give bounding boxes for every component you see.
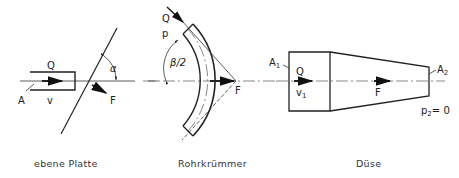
force-arrow <box>92 85 106 93</box>
label-v: v <box>47 95 53 106</box>
bend-inlet-edge <box>183 24 193 34</box>
label-F: F <box>110 95 116 106</box>
bend-outlet-edge <box>183 126 193 136</box>
A1-leader <box>283 65 289 68</box>
label-v1: v1 <box>296 87 306 100</box>
label-Q: Q <box>162 13 170 24</box>
caption-bend: Rohrkrümmer <box>178 158 247 169</box>
label-Q: Q <box>47 60 55 71</box>
nozzle-diagram: A1 Q v1 F A2 p2= 0 Düse <box>269 52 450 169</box>
label-beta-half: β/2 <box>169 57 186 68</box>
label-A2: A2 <box>437 64 448 77</box>
force-construction-line-2 <box>182 81 236 140</box>
caption-nozzle: Düse <box>356 158 381 169</box>
label-A1: A1 <box>269 57 280 70</box>
label-F: F <box>375 87 381 98</box>
label-F: F <box>235 85 241 96</box>
caption-plate: ebene Platte <box>34 158 98 169</box>
label-p: p <box>162 28 168 39</box>
label-A: A <box>18 95 25 106</box>
bend-diagram: Q p β/2 F Rohrkrümmer <box>143 7 275 169</box>
plate-diagram: Q A v F α ebene Platte <box>18 28 158 169</box>
label-alpha: α <box>110 63 117 74</box>
fluid-force-diagrams: Q A v F α ebene Platte Q p β/2 F Rohrkrü… <box>0 0 459 178</box>
A2-leader <box>429 70 436 74</box>
label-p2: p2= 0 <box>421 105 450 118</box>
bend-inner-wall <box>183 34 200 126</box>
label-Q: Q <box>296 66 304 77</box>
force-construction-line-1 <box>183 22 236 81</box>
